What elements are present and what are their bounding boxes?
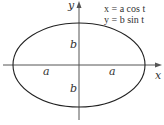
label-a-right: a <box>109 66 116 77</box>
equation-y: y = b sin t <box>104 14 144 25</box>
label-b-bottom: b <box>70 83 77 94</box>
equation-x: x = a cos t <box>104 3 145 14</box>
x-axis-arrow-icon <box>155 63 162 68</box>
y-axis-label: y <box>68 0 74 11</box>
label-b-top: b <box>70 39 77 50</box>
x-axis-label: x <box>155 70 161 81</box>
equation-y-text: y = b sin t <box>104 14 144 25</box>
label-a-left: a <box>43 66 50 77</box>
y-axis-arrow-icon <box>77 1 82 8</box>
equation-x-text: x = a cos t <box>104 3 145 14</box>
